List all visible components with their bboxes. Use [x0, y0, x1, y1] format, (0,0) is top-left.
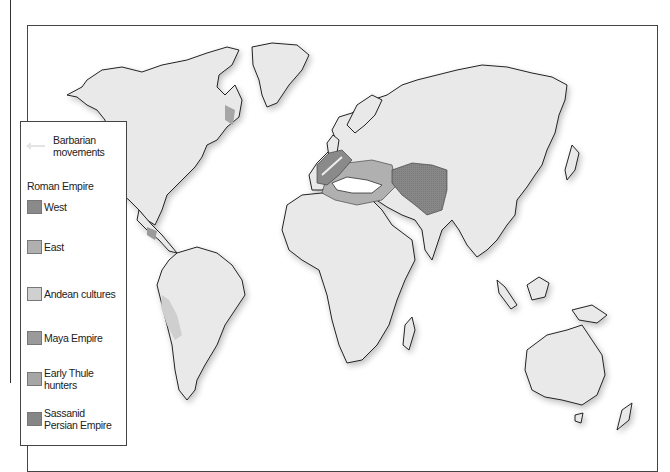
legend-item-roman-west: West — [27, 200, 67, 214]
legend-swatch-thule — [27, 372, 42, 386]
legend-item-andean-cultures: Andean cultures — [27, 287, 115, 301]
legend-item-sassanid-persian-empire: Sassanid Persian Empire — [27, 407, 112, 431]
legend-label: Persian Empire — [44, 419, 112, 431]
page-margin-rule — [10, 0, 11, 383]
legend-swatch-west — [27, 200, 42, 214]
legend-label: East — [44, 241, 64, 253]
legend-label: Barbarian — [53, 134, 105, 146]
legend-item-early-thule-hunters: Early Thule hunters — [27, 367, 94, 391]
legend-label: Early Thule — [44, 367, 94, 379]
legend-item-maya-empire: Maya Empire — [27, 331, 103, 345]
legend-heading-roman-empire: Roman Empire — [27, 180, 93, 192]
legend-label: West — [44, 201, 67, 213]
legend-swatch-andean — [27, 287, 42, 301]
tasmania — [575, 413, 583, 423]
arrow-left-icon — [29, 145, 45, 147]
legend-swatch-east — [27, 240, 42, 254]
legend-swatch-maya — [27, 331, 42, 345]
legend-label: movements — [53, 146, 105, 158]
legend-barbarian-movements: Barbarian movements — [27, 134, 105, 158]
legend-label: Andean cultures — [44, 288, 115, 300]
legend-swatch-sassanid — [27, 412, 42, 426]
legend-label: Sassanid — [44, 407, 112, 419]
legend-label: Maya Empire — [44, 332, 103, 344]
legend-item-roman-east: East — [27, 240, 64, 254]
legend-label: hunters — [44, 379, 94, 391]
map-legend: Barbarian movements Roman Empire West Ea… — [20, 121, 127, 446]
